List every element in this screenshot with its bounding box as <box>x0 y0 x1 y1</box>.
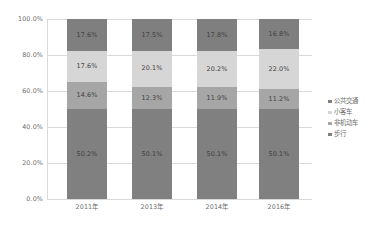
bar-segment[interactable]: 22.0% <box>259 49 299 89</box>
bar-segment[interactable]: 20.1% <box>132 51 172 87</box>
gridline <box>47 199 312 200</box>
bar-segment-label: 14.6% <box>77 92 98 98</box>
bar-segment[interactable]: 50.1% <box>132 109 172 199</box>
bar-segment-label: 50.1% <box>207 151 228 157</box>
bar-segment-label: 50.1% <box>142 151 163 157</box>
bar-segment-label: 50.1% <box>269 151 290 157</box>
bar-segment[interactable]: 12.3% <box>132 87 172 109</box>
bar-segment-label: 11.9% <box>207 95 228 101</box>
legend-item-nonmotorized[interactable]: 非机动车 <box>328 118 386 129</box>
x-axis-tick-label: 2011年 <box>57 204 117 210</box>
bar-column[interactable]: 17.8%20.2%11.9%50.1% <box>197 19 237 199</box>
bar-segment-label: 12.3% <box>142 95 163 101</box>
bar-segment[interactable]: 17.5% <box>132 19 172 51</box>
bar-segment[interactable]: 11.2% <box>259 89 299 109</box>
legend-item-walking[interactable]: 步行 <box>328 129 386 140</box>
legend-color-swatch-icon <box>328 122 332 126</box>
legend-item-label: 公共交通 <box>334 98 358 104</box>
bar-segment[interactable]: 17.6% <box>67 19 107 51</box>
bar-segment-label: 17.5% <box>142 32 163 38</box>
stacked-bar-chart: 100.0% 80.0% 60.0% 40.0% 20.0% 0.0% 17.6… <box>0 0 388 232</box>
bar-segment-label: 17.6% <box>77 63 98 69</box>
x-axis-tick-label: 2016年 <box>249 204 309 210</box>
bar-segment-label: 16.8% <box>269 31 290 37</box>
bar-segment[interactable]: 16.8% <box>259 19 299 49</box>
bar-column[interactable]: 17.5%20.1%12.3%50.1% <box>132 19 172 199</box>
y-axis-tick-label: 100.0% <box>18 16 43 22</box>
y-axis-tick-label: 60.0% <box>22 88 43 94</box>
bar-segment[interactable]: 20.2% <box>197 51 237 87</box>
y-axis-tick-label: 40.0% <box>22 124 43 130</box>
legend-item-transit[interactable]: 公共交通 <box>328 96 386 107</box>
bar-segment[interactable]: 50.2% <box>67 109 107 199</box>
bar-segment-label: 17.6% <box>77 32 98 38</box>
legend-item-label: 步行 <box>334 131 346 137</box>
y-axis: 100.0% 80.0% 60.0% 40.0% 20.0% 0.0% <box>0 19 43 199</box>
legend-color-swatch-icon <box>328 100 332 104</box>
bar-segment[interactable]: 17.6% <box>67 51 107 83</box>
legend-color-swatch-icon <box>328 111 332 115</box>
legend-item-car[interactable]: 小客车 <box>328 107 386 118</box>
y-axis-tick-label: 80.0% <box>22 52 43 58</box>
x-axis: 2011年 2013年 2014年 2016年 <box>47 201 312 219</box>
bar-segment-label: 50.2% <box>77 151 98 157</box>
bar-segment-label: 11.2% <box>269 96 290 102</box>
x-axis-tick-label: 2013年 <box>122 204 182 210</box>
legend-color-swatch-icon <box>328 133 332 137</box>
bar-segment-label: 20.2% <box>207 66 228 72</box>
legend: 公共交通 小客车 非机动车 步行 <box>328 96 386 140</box>
bar-segment[interactable]: 50.1% <box>197 109 237 199</box>
bar-segment-label: 22.0% <box>269 66 290 72</box>
bar-segment[interactable]: 14.6% <box>67 82 107 108</box>
y-axis-tick-label: 0.0% <box>26 196 43 202</box>
legend-item-label: 小客车 <box>334 109 352 115</box>
legend-item-label: 非机动车 <box>334 120 358 126</box>
bar-segment[interactable]: 50.1% <box>259 109 299 199</box>
bar-segment-label: 20.1% <box>142 65 163 71</box>
bar-segment[interactable]: 17.8% <box>197 19 237 51</box>
x-axis-tick-label: 2014年 <box>187 204 247 210</box>
bar-segment-label: 17.8% <box>207 32 228 38</box>
plot-area: 17.6%17.6%14.6%50.2% 17.5%20.1%12.3%50.1… <box>47 19 312 199</box>
y-axis-tick-label: 20.0% <box>22 160 43 166</box>
bar-segment[interactable]: 11.9% <box>197 87 237 108</box>
bar-column[interactable]: 17.6%17.6%14.6%50.2% <box>67 19 107 199</box>
bar-column[interactable]: 16.8%22.0%11.2%50.1% <box>259 19 299 199</box>
